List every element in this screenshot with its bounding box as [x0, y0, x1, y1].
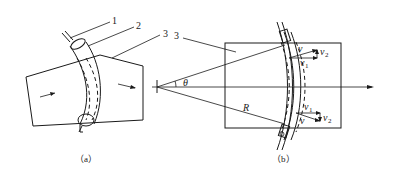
- roller-outer-left: [70, 46, 87, 124]
- label-v-bottom: v: [300, 115, 305, 126]
- callout-label-2: 2: [136, 20, 141, 31]
- caption-a: （a）: [75, 154, 97, 164]
- flow-arrow-left-icon: [40, 92, 55, 97]
- label-v-top: v: [298, 43, 303, 54]
- svg-text:1: 1: [305, 62, 309, 70]
- angle-arc: [175, 81, 176, 87]
- callout-label-1: 1: [112, 15, 117, 26]
- diagram-canvas: 1 2 3 （a） θ R: [0, 0, 395, 177]
- callout-leader-1: [70, 22, 110, 38]
- web-sheet: [26, 55, 143, 126]
- callout-label-3: 3: [163, 28, 168, 39]
- roller-hidden-edge-1: [77, 58, 90, 120]
- axis-arrow-icon: [367, 85, 374, 89]
- velocity-diagram-top: v v 1 v 2: [289, 43, 329, 70]
- flow-arrow-right-icon: [118, 84, 136, 89]
- roller-hidden-edge-2: [86, 58, 98, 120]
- callout-leader-3: [112, 35, 160, 58]
- radius-line-bottom: [157, 87, 285, 124]
- callout-label-3b: 3: [174, 30, 179, 41]
- panel-a: 1 2 3 （a）: [26, 15, 168, 164]
- svg-text:2: 2: [328, 117, 332, 125]
- panel-b: θ R v v 1 v 2: [152, 22, 374, 164]
- shaft-top: [62, 33, 70, 42]
- caption-b: （b）: [272, 154, 295, 164]
- radius-line-top: [157, 45, 285, 87]
- radius-label: R: [242, 102, 249, 113]
- svg-text:2: 2: [325, 51, 329, 59]
- callout-leader-2: [88, 27, 134, 46]
- svg-text:1: 1: [309, 106, 313, 114]
- angle-label: θ: [183, 77, 188, 88]
- callout-leader-3b: [183, 38, 236, 52]
